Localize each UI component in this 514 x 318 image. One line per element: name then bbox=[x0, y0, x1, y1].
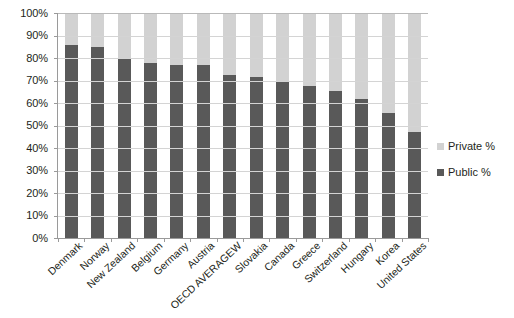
bar-segment-private bbox=[303, 13, 316, 86]
chart-legend: Private %Public % bbox=[437, 140, 514, 192]
y-axis-tick-label: 10% bbox=[26, 210, 48, 221]
gridline bbox=[58, 58, 428, 59]
bar-segment-private bbox=[408, 13, 421, 132]
bar-segment-private bbox=[197, 13, 210, 65]
y-axis-tick-mark bbox=[54, 36, 58, 37]
bar-segment-public bbox=[65, 45, 78, 239]
y-axis-tick-mark bbox=[54, 103, 58, 104]
legend-item[interactable]: Private % bbox=[437, 140, 514, 152]
y-axis-tick-mark bbox=[54, 171, 58, 172]
gridline bbox=[58, 216, 428, 217]
legend-item-label: Private % bbox=[448, 140, 495, 152]
bar-segment-private bbox=[170, 13, 183, 65]
y-axis-tick-label: 90% bbox=[26, 30, 48, 41]
bar-segment-public bbox=[355, 99, 368, 239]
y-axis-tick-label: 70% bbox=[26, 75, 48, 86]
y-axis-tick-label: 0% bbox=[32, 233, 48, 244]
gridline bbox=[58, 148, 428, 149]
plot-area bbox=[57, 13, 428, 239]
bar-segment-private bbox=[223, 13, 236, 75]
y-axis-tick-mark bbox=[54, 13, 58, 14]
legend-swatch-icon bbox=[437, 169, 444, 176]
bar-segment-public bbox=[223, 75, 236, 238]
bar-segment-private bbox=[276, 13, 289, 82]
legend-item[interactable]: Public % bbox=[437, 166, 514, 178]
y-axis-tick-mark bbox=[54, 126, 58, 127]
gridline bbox=[58, 193, 428, 194]
legend-swatch-icon bbox=[437, 143, 444, 150]
y-axis-tick-mark bbox=[54, 81, 58, 82]
bar-segment-private bbox=[329, 13, 342, 91]
x-axis-category-label: Denmark bbox=[46, 240, 85, 277]
bar-segment-private bbox=[65, 13, 78, 45]
bar-segment-private bbox=[355, 13, 368, 99]
legend-item-label: Public % bbox=[448, 166, 491, 178]
gridline bbox=[58, 81, 428, 82]
y-axis-tick-mark bbox=[54, 216, 58, 217]
bar-segment-public bbox=[382, 113, 395, 238]
y-axis-tick-label: 20% bbox=[26, 188, 48, 199]
y-axis-tick-label: 40% bbox=[26, 143, 48, 154]
gridline bbox=[58, 126, 428, 127]
bar-segment-public bbox=[170, 65, 183, 238]
y-axis-tick-label: 60% bbox=[26, 98, 48, 109]
bar-segment-public bbox=[250, 77, 263, 238]
bar-segment-private bbox=[144, 13, 157, 63]
bar-segment-private bbox=[382, 13, 395, 113]
bar-segment-private bbox=[250, 13, 263, 77]
y-axis-tick-mark bbox=[54, 148, 58, 149]
x-axis-category-labels: DenmarkNorwayNew ZealandBelgiumGermanyAu… bbox=[57, 240, 437, 318]
y-axis-tick-label: 50% bbox=[26, 120, 48, 131]
y-axis-tick-label: 80% bbox=[26, 53, 48, 64]
y-axis-tick-labels: 100%90%80%70%60%50%40%30%20%10%0% bbox=[0, 13, 52, 238]
gridline bbox=[58, 103, 428, 104]
stacked-bar-chart: 100%90%80%70%60%50%40%30%20%10%0% Denmar… bbox=[0, 0, 514, 318]
bar-segment-public bbox=[144, 63, 157, 239]
y-axis-tick-label: 30% bbox=[26, 165, 48, 176]
gridline bbox=[58, 13, 428, 14]
bar-segment-public bbox=[91, 47, 104, 238]
y-axis-tick-label: 100% bbox=[20, 8, 48, 19]
bar-segment-public bbox=[197, 65, 210, 238]
bar-segment-private bbox=[91, 13, 104, 47]
gridline bbox=[58, 171, 428, 172]
y-axis-tick-mark bbox=[54, 58, 58, 59]
gridline bbox=[58, 36, 428, 37]
y-axis-tick-mark bbox=[54, 193, 58, 194]
